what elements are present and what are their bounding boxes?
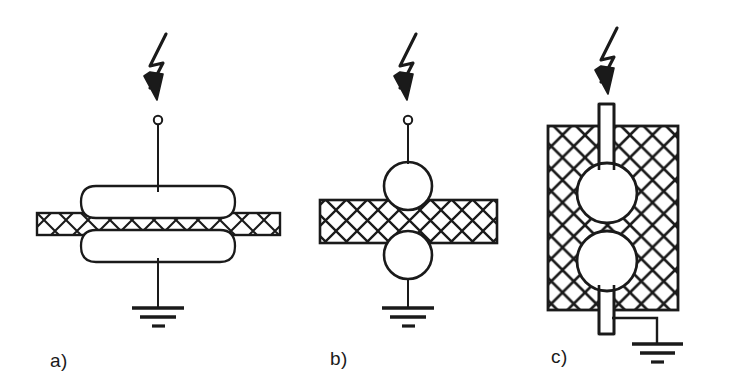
lightning-bolt-icon [144,34,166,100]
earth-ground-symbol [132,308,184,326]
panel-a [37,34,280,326]
panel-label-c: c) [551,346,568,368]
earth-ground-symbol [382,308,434,326]
panel-b [320,34,497,326]
earth-ground-symbol [632,344,683,362]
lightning-bolt-icon [595,28,617,94]
electrode-sphere-upper [577,163,637,223]
ground-lead-wire [612,318,657,344]
terminal-node-circle [404,116,412,124]
bushing-flashover-diagram [0,0,740,386]
panel-c [548,28,683,362]
panel-label-b: b) [330,348,348,370]
panel-label-a: a) [50,350,68,372]
electrode-sphere-upper [384,162,432,210]
terminal-node-circle [154,116,162,124]
electrode-sphere-lower [384,231,432,279]
electrode-sphere-lower [577,231,637,291]
electrode-shed-lower [81,230,235,262]
figure-canvas: a) b) c) [0,0,740,386]
lightning-bolt-icon [394,34,416,100]
